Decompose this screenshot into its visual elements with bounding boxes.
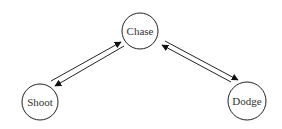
edge-dodge-to-chase (162, 45, 231, 82)
state-diagram: Chase Shoot Dodge (0, 0, 282, 129)
node-dodge-label: Dodge (232, 95, 261, 107)
node-dodge: Dodge (228, 82, 266, 120)
node-chase: Chase (122, 13, 158, 49)
node-chase-label: Chase (127, 25, 154, 37)
node-shoot: Shoot (22, 84, 58, 120)
edge-chase-to-shoot (55, 46, 124, 86)
edge-chase-to-dodge (165, 41, 238, 80)
edge-shoot-to-chase (51, 42, 121, 81)
node-shoot-label: Shoot (27, 96, 53, 108)
